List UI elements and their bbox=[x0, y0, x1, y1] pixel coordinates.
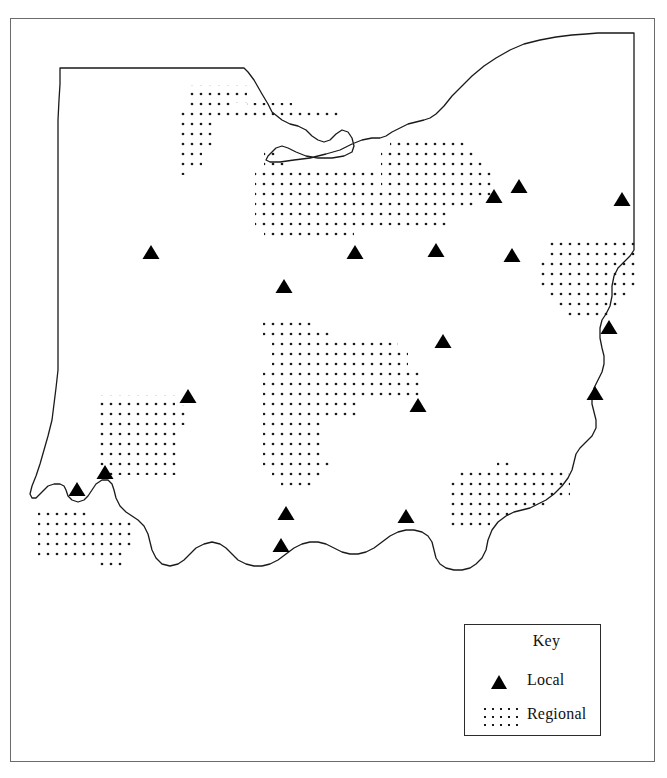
local-site bbox=[428, 243, 445, 257]
local-site bbox=[69, 482, 86, 496]
local-site bbox=[601, 320, 618, 334]
legend-row-local: Local bbox=[465, 667, 602, 695]
legend-label-regional: Regional bbox=[527, 703, 586, 725]
local-site bbox=[180, 389, 197, 403]
legend-box: Key Local Regional bbox=[464, 624, 601, 736]
local-site bbox=[511, 179, 528, 193]
legend-label-local: Local bbox=[527, 669, 564, 691]
local-site bbox=[273, 538, 290, 552]
regional-area-cincinnati bbox=[38, 508, 134, 568]
local-site bbox=[278, 506, 295, 520]
local-site bbox=[276, 279, 293, 293]
local-site bbox=[143, 245, 160, 259]
regional-area-cleveland bbox=[255, 138, 494, 238]
regional-area-marietta bbox=[450, 458, 570, 528]
local-site bbox=[614, 192, 631, 206]
local-site bbox=[347, 245, 364, 259]
regional-area-toledo-east bbox=[247, 103, 343, 121]
map-figure: Key Local Regional bbox=[0, 0, 667, 778]
local-site bbox=[435, 334, 452, 348]
regional-area-dayton bbox=[95, 395, 187, 475]
local-site bbox=[410, 398, 427, 412]
local-site bbox=[587, 386, 604, 400]
regional-area-columbus bbox=[263, 318, 423, 488]
triangle-marker-icon bbox=[479, 669, 519, 693]
legend-row-regional: Regional bbox=[465, 701, 602, 729]
local-site bbox=[398, 509, 415, 523]
legend-title: Key bbox=[465, 632, 602, 650]
regional-area-youngstown bbox=[537, 236, 636, 316]
regional-area-toledo bbox=[176, 85, 253, 175]
local-site bbox=[504, 248, 521, 262]
dot-pattern-icon bbox=[479, 703, 519, 727]
